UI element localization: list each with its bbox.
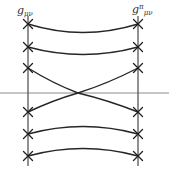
curve-bottom-arch-2 xyxy=(28,149,138,157)
diagram-canvas xyxy=(0,0,169,173)
curve-bottom-arch-1 xyxy=(28,127,138,135)
curve-group xyxy=(28,24,138,156)
curve-top-sag-1 xyxy=(28,24,138,33)
curve-top-sag-2 xyxy=(28,47,138,55)
figure-container: gμν gπμν xyxy=(0,0,169,173)
